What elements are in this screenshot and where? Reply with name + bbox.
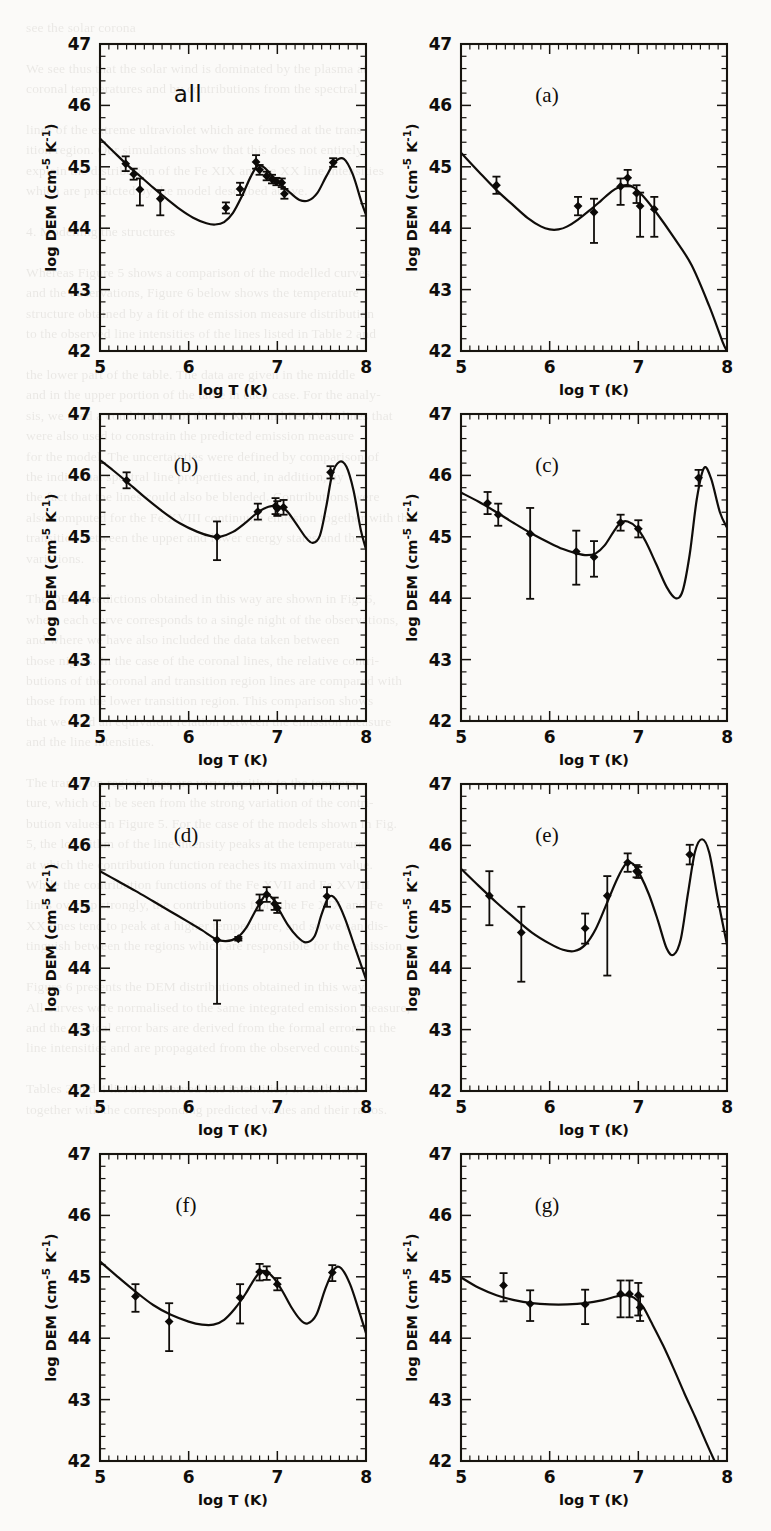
y-tick-label: 42 (429, 711, 452, 731)
data-point-group (483, 470, 703, 599)
dem-panel-a: 5678424344454647log T (K)log DEM (cm-5 K… (391, 30, 741, 390)
x-tick-label: 8 (721, 727, 733, 747)
panel-label-d: (d) (174, 823, 199, 847)
y-tick-label: 44 (68, 588, 92, 608)
x-tick-label: 5 (94, 727, 106, 747)
dem-panel-b: 5678424344454647log T (K)log DEM (cm-5 K… (30, 400, 380, 760)
y-tick-label: 43 (68, 1020, 91, 1040)
y-tick-label: 45 (429, 157, 452, 177)
data-point-marker (581, 924, 590, 933)
x-tick-label: 6 (183, 1467, 195, 1487)
data-point-marker (323, 892, 332, 901)
dem-fit-curve (461, 153, 727, 351)
panel-label-g: (g) (535, 1193, 560, 1217)
y-tick-label: 42 (429, 341, 452, 361)
y-tick-label: 43 (429, 280, 452, 300)
data-point-marker (499, 1281, 508, 1290)
x-tick-label: 5 (455, 1097, 467, 1117)
y-tick-label: 43 (68, 280, 91, 300)
y-tick-label: 43 (429, 1390, 452, 1410)
dem-panel-e: 5678424344454647log T (K)log DEM (cm-5 K… (391, 770, 741, 1130)
x-tick-label: 7 (272, 727, 284, 747)
y-tick-label: 45 (68, 157, 91, 177)
y-tick-label: 46 (68, 1205, 91, 1225)
y-tick-label: 46 (429, 1205, 452, 1225)
plot-frame (461, 44, 727, 351)
y-tick-label: 45 (68, 1267, 91, 1287)
y-tick-label: 47 (68, 774, 91, 794)
x-tick-label: 7 (272, 1467, 284, 1487)
y-tick-label: 47 (68, 404, 91, 424)
y-tick-label: 42 (68, 711, 91, 731)
y-axis-title: log DEM (cm-5 K-1) (401, 863, 420, 1011)
y-tick-label: 43 (68, 1390, 91, 1410)
x-tick-label: 6 (544, 357, 556, 377)
data-point-marker (623, 173, 632, 182)
x-tick-label: 5 (455, 727, 467, 747)
data-point-group (499, 1273, 644, 1324)
y-tick-label: 46 (68, 95, 91, 115)
data-point-marker (517, 928, 526, 937)
plot-frame (461, 784, 727, 1091)
plot-frame (100, 784, 366, 1091)
x-tick-label: 6 (183, 727, 195, 747)
x-tick-label: 5 (455, 357, 467, 377)
y-tick-label: 46 (68, 465, 91, 485)
dem-fit-curve (100, 460, 366, 549)
y-tick-label: 42 (429, 1451, 452, 1471)
panel-label-b: (b) (174, 453, 199, 477)
y-tick-label: 42 (68, 341, 91, 361)
figure-panel-grid: 5678424344454647log T (K)log DEM (cm-5 K… (0, 0, 771, 1531)
data-point-group (122, 466, 335, 560)
y-tick-label: 46 (68, 835, 91, 855)
y-tick-label: 43 (429, 1020, 452, 1040)
data-point-marker (165, 1317, 174, 1326)
data-point-group (492, 170, 659, 243)
x-axis-title: log T (K) (198, 752, 268, 768)
y-axis-title: log DEM (cm-5 K-1) (401, 1233, 420, 1381)
x-tick-label: 8 (360, 1467, 372, 1487)
x-tick-label: 8 (360, 357, 372, 377)
data-point-marker (234, 934, 243, 943)
x-tick-label: 6 (544, 1097, 556, 1117)
x-tick-label: 7 (633, 727, 645, 747)
dem-fit-curve (100, 1261, 366, 1333)
y-tick-label: 47 (429, 774, 452, 794)
x-tick-label: 5 (94, 1097, 106, 1117)
y-axis-title: log DEM (cm-5 K-1) (40, 863, 59, 1011)
y-tick-label: 44 (429, 588, 453, 608)
x-tick-label: 5 (455, 1467, 467, 1487)
x-tick-label: 5 (94, 1467, 106, 1487)
x-tick-label: 6 (183, 357, 195, 377)
x-axis-title: log T (K) (559, 1492, 629, 1508)
x-axis-title: log T (K) (559, 1122, 629, 1138)
x-tick-label: 7 (272, 357, 284, 377)
y-tick-label: 44 (68, 958, 92, 978)
data-point-marker (581, 1300, 590, 1309)
y-tick-label: 46 (429, 95, 452, 115)
dem-panel-g: 5678424344454647log T (K)log DEM (cm-5 K… (391, 1140, 741, 1500)
data-point-marker (213, 532, 222, 541)
y-tick-label: 43 (429, 650, 452, 670)
y-tick-label: 47 (429, 1144, 452, 1164)
plot-frame (100, 414, 366, 721)
y-axis-title: log DEM (cm-5 K-1) (401, 493, 420, 641)
plot-frame (461, 1154, 727, 1461)
x-tick-label: 7 (633, 1097, 645, 1117)
y-tick-label: 44 (429, 218, 453, 238)
y-tick-label: 45 (68, 897, 91, 917)
dem-panel-all: 5678424344454647log T (K)log DEM (cm-5 K… (30, 30, 380, 390)
data-point-marker (574, 202, 583, 211)
y-tick-label: 43 (68, 650, 91, 670)
y-axis-title: log DEM (cm-5 K-1) (401, 123, 420, 271)
y-tick-label: 45 (429, 1267, 452, 1287)
x-axis-title: log T (K) (198, 1492, 268, 1508)
x-tick-label: 5 (94, 357, 106, 377)
x-axis-title: log T (K) (198, 382, 268, 398)
data-point-marker (236, 1293, 245, 1302)
x-axis-title: log T (K) (559, 382, 629, 398)
dem-panel-d: 5678424344454647log T (K)log DEM (cm-5 K… (30, 770, 380, 1130)
data-point-marker (222, 204, 231, 213)
y-tick-label: 47 (429, 34, 452, 54)
dem-fit-curve (461, 1277, 720, 1472)
